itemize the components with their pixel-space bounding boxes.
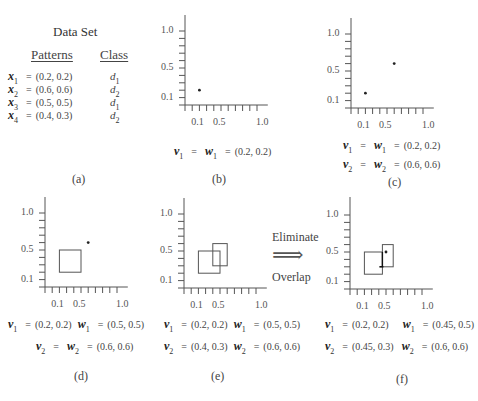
formula-f-line1: v1 =(0.2, 0.2) w1 =(0.45, 0.5) <box>325 314 474 334</box>
y-tick-label: 0.5 <box>327 64 340 75</box>
x-tick-label: 1.0 <box>256 116 269 127</box>
data-point <box>364 92 367 95</box>
x-tick-label: 0.1 <box>51 298 64 309</box>
y-tick-label: 0.1 <box>160 274 173 285</box>
formula-c-line1: v1 = w1 =(0.2, 0.2) <box>343 135 440 155</box>
y-tick-label: 0.1 <box>161 91 174 102</box>
hyperbox <box>198 251 220 273</box>
caption-d: (d) <box>74 369 88 384</box>
x-tick-label: 0.1 <box>356 300 369 311</box>
y-tick-label: 0.1 <box>21 273 34 284</box>
double-arrow-icon: ⟹ <box>272 244 304 266</box>
y-tick-label: 1.0 <box>327 27 340 38</box>
y-tick-label: 1.0 <box>161 24 174 35</box>
caption-e: (e) <box>211 369 224 384</box>
data-point <box>385 251 388 254</box>
formula-d-line1: v1 =(0.2, 0.2) w1 =(0.5, 0.5) <box>8 314 144 334</box>
x-tick-label: 0.1 <box>357 119 370 130</box>
y-tick-label: 1.0 <box>21 206 34 217</box>
caption-c: (c) <box>388 175 401 190</box>
caption-b: (b) <box>212 172 226 187</box>
overlap-label: Overlap <box>272 270 311 285</box>
caption-f: (f) <box>396 372 408 387</box>
y-tick-label: 1.0 <box>160 207 173 218</box>
y-tick-label: 0.5 <box>160 244 173 255</box>
formula-d-line2: v2 = w2 =(0.6, 0.6) <box>36 336 133 356</box>
x-tick-label: 1.0 <box>255 299 268 310</box>
formula-c-line2: v2 = w2 =(0.6, 0.6) <box>343 154 440 174</box>
formula-e-line1: v1 =(0.2, 0.2) w1 =(0.5, 0.5) <box>164 314 300 334</box>
x-tick-label: 0.1 <box>191 116 204 127</box>
y-tick-label: 1.0 <box>326 208 339 219</box>
data-point <box>198 89 201 92</box>
data-point <box>393 62 396 65</box>
formula-e-line2: v2 =(0.4, 0.3) w2 =(0.6, 0.6) <box>164 336 300 356</box>
data-point <box>87 241 90 244</box>
x-tick-label: 1.0 <box>421 300 434 311</box>
y-tick-label: 0.5 <box>326 245 339 256</box>
y-tick-label: 0.1 <box>327 94 340 105</box>
x-tick-label: 0.5 <box>378 300 391 311</box>
hyperbox <box>382 245 393 267</box>
y-tick-label: 0.5 <box>161 61 174 72</box>
formula-f-line2: v2 =(0.45, 0.3) w2 =(0.6, 0.6) <box>325 336 468 356</box>
x-tick-label: 0.5 <box>212 299 225 310</box>
y-tick-label: 0.1 <box>326 275 339 286</box>
x-tick-label: 1.0 <box>116 298 129 309</box>
x-tick-label: 0.5 <box>73 298 86 309</box>
x-tick-label: 0.5 <box>379 119 392 130</box>
hyperbox <box>364 252 382 274</box>
hyperbox <box>59 250 81 272</box>
x-tick-label: 0.1 <box>190 299 203 310</box>
y-tick-label: 0.5 <box>21 243 34 254</box>
formula-b-line1: v1 = w1 =(0.2, 0.2) <box>174 141 271 161</box>
x-tick-label: 0.5 <box>213 116 226 127</box>
x-tick-label: 1.0 <box>422 119 435 130</box>
